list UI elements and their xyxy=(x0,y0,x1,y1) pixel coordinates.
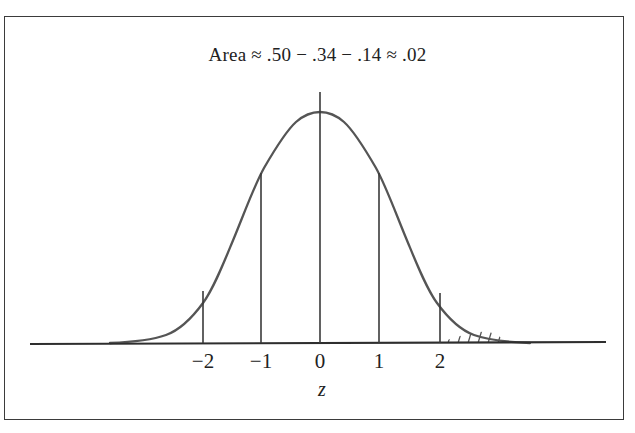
tick-label-neg2: −2 xyxy=(173,349,233,374)
tick-label-neg1: −1 xyxy=(231,349,291,374)
tick-label-pos1: 1 xyxy=(349,349,409,374)
tick-label-zero: 0 xyxy=(290,349,350,374)
tick-label-pos2: 2 xyxy=(410,349,470,374)
axis-variable-label: z xyxy=(292,378,352,401)
area-caption: Area ≈ .50 − .34 − .14 ≈ .02 xyxy=(0,44,635,66)
figure-root: Area ≈ .50 − .34 − .14 ≈ .02 −2 −1 0 1 2… xyxy=(0,0,635,433)
